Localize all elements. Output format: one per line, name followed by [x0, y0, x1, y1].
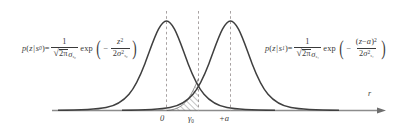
- formula-right-sigma-subscript: s₁: [315, 55, 318, 60]
- formula-right-sqrt: √ 2π: [296, 49, 311, 59]
- left-paren-icon: (: [340, 42, 344, 55]
- formula-right-minus: −: [346, 45, 351, 53]
- formula-left-sqrt: √ 2π: [53, 49, 68, 59]
- formula-right-equals: =: [288, 45, 293, 53]
- radical-icon: √: [53, 48, 59, 58]
- formula-right-fraction-prefactor: 1 √ 2π σs₁: [294, 38, 321, 60]
- formula-left-exp: exp: [80, 45, 92, 53]
- radical-icon: √: [296, 48, 302, 58]
- formula-left-fraction-prefactor: 1 √ 2π σs₀: [51, 38, 78, 60]
- formula-right-exp: exp: [323, 45, 335, 53]
- formula-p-z-given-s0: p(z|s0)= 1 √ 2π σs₀ exp ( − z2 2σ2s₀ ): [22, 38, 138, 60]
- formula-right-two-pi: 2π: [302, 49, 311, 58]
- formula-left-exp-sigma-subscript: s₀: [124, 54, 127, 59]
- formula-left-exponent-denominator: 2σ2s₀: [111, 48, 130, 59]
- formula-right-prefactor-numerator: 1: [303, 38, 311, 47]
- formula-right-exponent-numerator: (z−a)2: [354, 38, 379, 48]
- formula-right-exp-sigma-subscript: s₁: [370, 54, 373, 59]
- formula-left-equals: =: [45, 45, 50, 53]
- formula-left-sigma-subscript: s₀: [72, 55, 75, 60]
- formula-left-exp-z-power: 2: [120, 38, 123, 44]
- formula-right-radicand: 2π: [302, 49, 312, 59]
- axis-tick-label-zero: 0: [160, 113, 164, 123]
- signal-detection-figure: p(z|s0)= 1 √ 2π σs₀ exp ( − z2 2σ2s₀ ) p…: [0, 0, 406, 133]
- axis-tick-label-gamma: γ0: [188, 113, 194, 124]
- formula-left-exponent-numerator: z2: [115, 38, 125, 48]
- right-paren-icon: ): [381, 42, 385, 55]
- axis-variable-label: r: [368, 89, 371, 98]
- gamma-subscript: 0: [191, 118, 194, 124]
- axis-tick-label-plus-a: +a: [219, 113, 229, 123]
- distribution-plot: [0, 0, 406, 133]
- formula-right-exponent-fraction: (z−a)2 2σ2s₁: [354, 38, 379, 59]
- formula-left-two-pi: 2π: [59, 49, 68, 58]
- formula-left-radicand: 2π: [59, 49, 69, 59]
- formula-right-exponent-denominator: 2σ2s₁: [357, 48, 376, 59]
- right-paren-icon: ): [132, 42, 136, 55]
- formula-left-minus: −: [103, 45, 108, 53]
- formula-left-prefactor-numerator: 1: [60, 38, 68, 47]
- formula-right-prefactor-denominator: √ 2π σs₁: [294, 47, 321, 59]
- formula-left-prefactor-denominator: √ 2π σs₀: [51, 47, 78, 59]
- formula-p-z-given-s1: p(z|s1)= 1 √ 2π σs₁ exp ( − (z−a)2 2σ2s₁…: [265, 38, 387, 60]
- left-paren-icon: (: [97, 42, 101, 55]
- formula-right-exp-power: 2: [374, 38, 377, 44]
- formula-left-exponent-fraction: z2 2σ2s₀: [111, 38, 130, 59]
